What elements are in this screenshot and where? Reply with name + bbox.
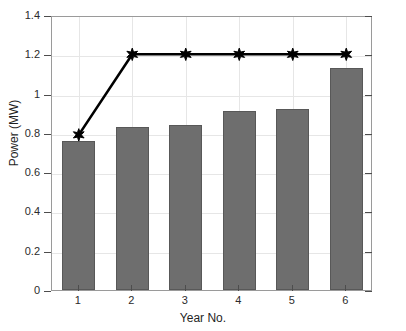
y-axis-tick-label: 1.2 (25, 49, 40, 60)
y-axis-tick-label: 0.8 (25, 128, 40, 139)
y-axis-tick-right (365, 173, 372, 174)
x-axis-tick (185, 285, 186, 291)
y-axis-tick (44, 95, 51, 96)
y-gridline (52, 56, 371, 57)
y-gridline (52, 174, 371, 175)
y-axis-tick-right (365, 212, 372, 213)
bar (116, 127, 149, 290)
bar (169, 125, 202, 290)
y-axis-tick-label: 0.6 (25, 167, 40, 178)
y-axis-tick-right (365, 55, 372, 56)
y-axis-tick-label: 0.2 (25, 246, 40, 257)
bar (330, 68, 363, 290)
y-axis-tick (44, 252, 51, 253)
y-axis-tick (44, 55, 51, 56)
y-gridline (52, 213, 371, 214)
y-axis-tick-right (365, 95, 372, 96)
x-axis-title: Year No. (0, 311, 406, 325)
x-axis-tick (292, 285, 293, 291)
chart-figure: Power (MW) Year No. 00.20.40.60.811.21.4… (0, 0, 406, 331)
y-axis-tick-label: 1 (34, 89, 40, 100)
x-axis-tick (131, 285, 132, 291)
plot-area (51, 16, 372, 291)
y-axis-title: Power (MW) (7, 73, 21, 193)
y-gridline (52, 96, 371, 97)
y-axis-tick (44, 16, 51, 17)
x-axis-tick-label: 6 (330, 294, 360, 306)
x-axis-tick-label: 1 (63, 294, 93, 306)
x-axis-tick (78, 285, 79, 291)
y-axis-tick (44, 173, 51, 174)
bar (276, 109, 309, 290)
y-axis-tick-label: 0.4 (25, 206, 40, 217)
x-axis-tick-label: 3 (170, 294, 200, 306)
y-axis-tick (44, 291, 51, 292)
x-axis-tick-label: 4 (223, 294, 253, 306)
plot-inner (52, 17, 371, 290)
y-axis-tick (44, 212, 51, 213)
y-gridline (52, 253, 371, 254)
bar (223, 111, 256, 290)
y-axis-tick-label: 1.4 (25, 10, 40, 21)
y-axis-tick (44, 134, 51, 135)
x-axis-tick (238, 285, 239, 291)
y-axis-tick-right (365, 252, 372, 253)
y-axis-tick-right (365, 16, 372, 17)
bar (62, 141, 95, 290)
x-axis-tick-label: 5 (277, 294, 307, 306)
x-axis-tick (345, 285, 346, 291)
y-axis-tick-label: 0 (34, 285, 40, 296)
x-axis-tick-label: 2 (116, 294, 146, 306)
y-gridline (52, 135, 371, 136)
y-axis-tick-right (365, 291, 372, 292)
y-axis-tick-right (365, 134, 372, 135)
